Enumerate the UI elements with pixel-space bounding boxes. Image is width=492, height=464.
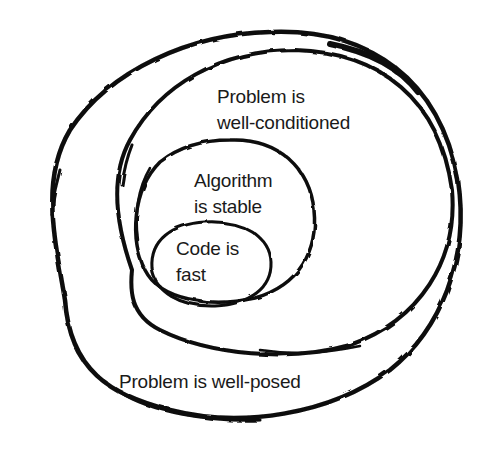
well-posed-label: Problem is well-posed	[119, 369, 301, 395]
well-posed-label-line-1: Problem is well-posed	[119, 369, 301, 395]
algorithm-stable-label-line-1: Algorithm	[194, 168, 272, 194]
well-conditioned-label-line-1: Problem is	[217, 84, 350, 110]
well-conditioned-label: Problem is well-conditioned	[217, 84, 350, 136]
algorithm-stable-label: Algorithm is stable	[194, 168, 272, 220]
code-fast-label-line-1: Code is	[176, 236, 239, 262]
code-fast-label: Code is fast	[176, 236, 239, 288]
well-conditioned-label-line-2: well-conditioned	[217, 110, 350, 136]
algorithm-stable-label-line-2: is stable	[194, 194, 272, 220]
code-fast-label-line-2: fast	[176, 262, 239, 288]
